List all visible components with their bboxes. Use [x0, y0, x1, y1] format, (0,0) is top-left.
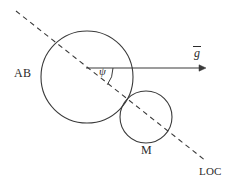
label-line-of-centers: LOC: [199, 166, 222, 177]
label-small-body: M: [141, 144, 152, 156]
label-large-body: AB: [14, 67, 31, 79]
gravity-vector-overbar: g: [194, 46, 200, 59]
label-gravity-vector: g: [194, 46, 200, 59]
angle-arc: [107, 68, 113, 85]
gravity-arrowhead-icon: [199, 65, 206, 71]
label-angle-psi: ψ: [99, 66, 106, 77]
large-circle: [41, 31, 133, 123]
line-of-centers-dashed: [16, 11, 206, 161]
diagram-canvas: [0, 0, 228, 183]
geometry-diagram: AB M LOC ψ g: [0, 0, 228, 183]
small-circle: [120, 91, 172, 143]
